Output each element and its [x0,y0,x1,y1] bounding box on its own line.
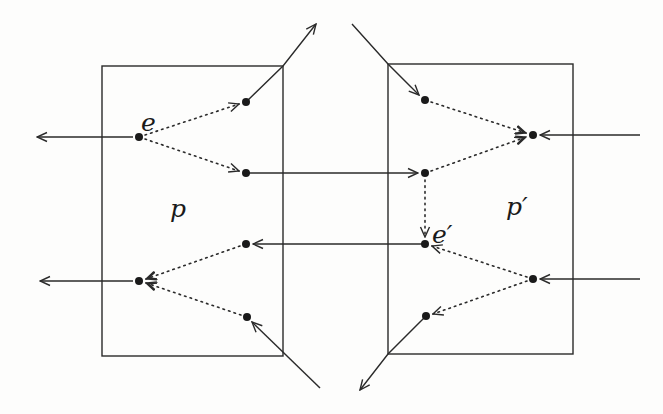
event-node-h [421,169,429,177]
arrow-a-exit-top [246,24,316,102]
dotted-edge-i-to-e-prime [432,246,527,277]
event-node-i [529,275,537,283]
dotted-edge-e-node-to-d [146,283,241,315]
event-node-g [529,131,537,139]
label-p: p [170,196,186,221]
dotted-edge-f-to-g [431,102,526,133]
event-node-a [242,98,250,106]
process-p-box [102,66,283,356]
process-diagram [0,0,663,414]
label-e-prime: e′ [432,222,452,247]
arrow-entry-to-f [352,24,419,95]
event-node-e-prime [421,240,429,248]
dotted-edge-i-to-j [433,281,527,314]
dotted-edge-e-to-b [145,139,239,171]
event-node-e-lower [243,313,251,321]
event-node-f [421,96,429,104]
arrow-j-exit-bottom [360,316,426,390]
label-p-prime: p′ [506,194,528,219]
arrow-entry-to-e-node [252,322,320,388]
dotted-edge-e-to-a [145,104,239,135]
event-node-d [135,277,143,285]
dotted-edge-h-to-g [431,137,526,171]
label-e: e [141,110,156,135]
event-node-j [422,312,430,320]
process-p-prime-box [388,64,573,354]
event-node-c [242,240,250,248]
dotted-edge-c-to-d [146,246,240,279]
event-node-b [242,169,250,177]
diagram-canvas: e e′ p p′ [0,0,663,414]
